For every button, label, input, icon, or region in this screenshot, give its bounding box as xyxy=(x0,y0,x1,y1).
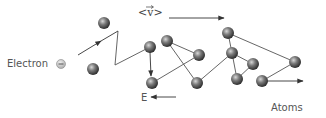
atom xyxy=(87,63,99,75)
atom xyxy=(289,56,301,68)
atoms xyxy=(87,17,301,89)
drift-velocity-label: <v> xyxy=(138,6,163,19)
electric-field-label: E xyxy=(141,92,147,103)
atom xyxy=(193,49,205,61)
atoms-label: Atoms xyxy=(271,102,303,113)
atom xyxy=(161,35,173,47)
atom xyxy=(144,41,156,53)
atom xyxy=(231,73,243,85)
incoming-electron-arrow xyxy=(78,41,101,55)
electron-label: Electron xyxy=(7,58,48,69)
incoming-path xyxy=(101,31,118,41)
electron-icon xyxy=(57,60,66,69)
atom xyxy=(191,77,203,89)
atom xyxy=(98,17,110,29)
atom xyxy=(222,27,234,39)
atom xyxy=(247,58,259,70)
trajectory-lines xyxy=(115,31,295,83)
diagram-canvas xyxy=(0,0,326,118)
trajectory-segment xyxy=(228,33,295,62)
arrows xyxy=(78,18,303,97)
atom xyxy=(146,77,158,89)
atom xyxy=(256,75,268,87)
atom xyxy=(226,47,238,59)
scatter-arrow xyxy=(150,52,151,76)
trajectory-segment xyxy=(152,55,199,83)
